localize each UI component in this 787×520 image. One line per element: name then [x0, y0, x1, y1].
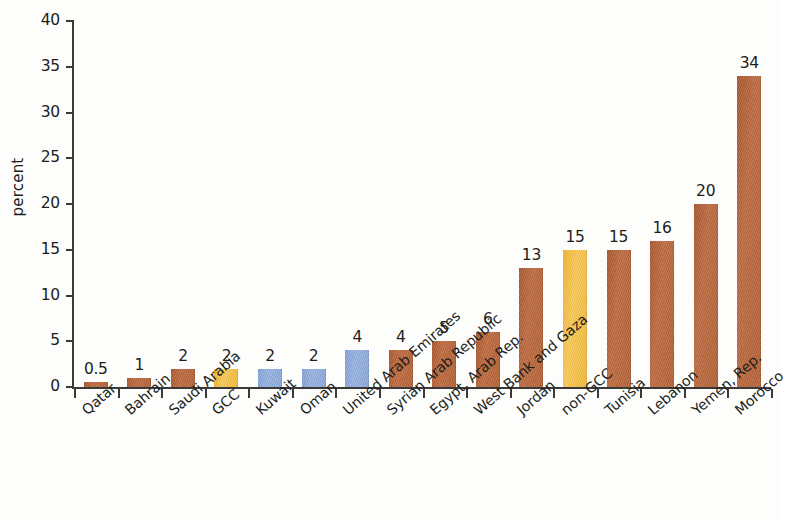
- bar-value-label: 20: [696, 182, 715, 200]
- bar-group[interactable]: 2: [302, 21, 326, 387]
- bar[interactable]: [345, 350, 369, 387]
- bar-group[interactable]: 2: [171, 21, 195, 387]
- bar-value-label: 15: [565, 228, 584, 246]
- plot-area: 0.5122224456131515162034: [74, 21, 771, 387]
- bar-value-label: 0.5: [84, 360, 108, 378]
- y-axis-tick-label: 15: [24, 240, 60, 258]
- y-axis-tick: [66, 203, 74, 205]
- bar-group[interactable]: 20: [694, 21, 718, 387]
- x-axis-label: GCC: [209, 386, 243, 418]
- bar-value-label: 2: [309, 347, 319, 365]
- y-axis-tick-label: 20: [24, 194, 60, 212]
- y-axis-tick-label: 10: [24, 286, 60, 304]
- y-axis-tick: [66, 20, 74, 22]
- bar[interactable]: [694, 204, 718, 387]
- bar-value-label: 13: [522, 246, 541, 264]
- bar-group[interactable]: 15: [607, 21, 631, 387]
- y-axis-tick: [66, 295, 74, 297]
- bar-value-label: 1: [135, 356, 145, 374]
- bar[interactable]: [650, 241, 674, 387]
- y-axis-tick-label: 5: [24, 331, 60, 349]
- bar-value-label: 34: [740, 54, 759, 72]
- bar-group[interactable]: 16: [650, 21, 674, 387]
- bar-group[interactable]: 1: [127, 21, 151, 387]
- bar-group[interactable]: 13: [519, 21, 543, 387]
- bar-group[interactable]: 2: [258, 21, 282, 387]
- bar-value-label: 15: [609, 228, 628, 246]
- y-axis-tick: [66, 340, 74, 342]
- y-axis-tick: [66, 157, 74, 159]
- y-axis-tick-label: 0: [24, 377, 60, 395]
- bar[interactable]: [607, 250, 631, 387]
- bar-value-label: 4: [396, 328, 406, 346]
- y-axis-tick: [66, 112, 74, 114]
- bar-group[interactable]: 4: [345, 21, 369, 387]
- bar[interactable]: [737, 76, 761, 387]
- x-axis-tick: [74, 389, 76, 398]
- bar-value-label: 2: [178, 347, 188, 365]
- bar-value-label: 4: [352, 328, 362, 346]
- bar-group[interactable]: 34: [737, 21, 761, 387]
- bar-group[interactable]: 2: [214, 21, 238, 387]
- y-axis-tick-label: 30: [24, 103, 60, 121]
- bar-value-label: 2: [265, 347, 275, 365]
- y-axis-tick-label: 25: [24, 148, 60, 166]
- y-axis-tick-label: 35: [24, 57, 60, 75]
- y-axis-tick-label: 40: [24, 11, 60, 29]
- bar-group[interactable]: 4: [389, 21, 413, 387]
- bar-group[interactable]: 0.5: [84, 21, 108, 387]
- x-axis-tick: [248, 389, 250, 398]
- bar-value-label: 16: [653, 219, 672, 237]
- y-axis-tick: [66, 249, 74, 251]
- y-axis-tick: [66, 66, 74, 68]
